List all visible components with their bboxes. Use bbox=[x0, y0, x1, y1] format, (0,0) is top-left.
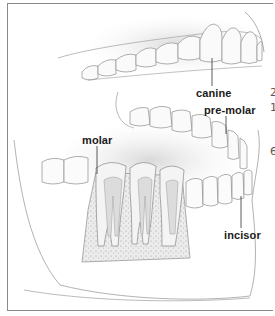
label-incisor: incisor bbox=[224, 229, 261, 241]
edge-fragment-1: 2 bbox=[270, 86, 275, 99]
upper-jaw bbox=[58, 12, 270, 80]
label-molar: molar bbox=[82, 134, 112, 146]
jaw-illustration bbox=[0, 0, 275, 316]
edge-fragment-3: 6 bbox=[270, 145, 275, 158]
edge-fragment-2: 1 bbox=[270, 101, 275, 114]
lower-jaw bbox=[14, 92, 259, 301]
label-canine: canine bbox=[196, 87, 231, 99]
label-pre-molar: pre-molar bbox=[204, 104, 256, 116]
